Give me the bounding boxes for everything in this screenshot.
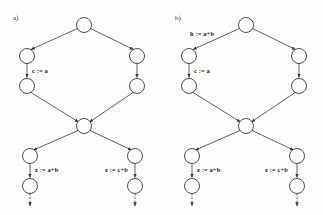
node-left-upper (182, 49, 197, 64)
node-right-upper (292, 49, 307, 64)
node-left-lower (20, 79, 35, 94)
node-exit-left-lower (23, 179, 38, 194)
panel-b-label-left-upper-chain: c := a (194, 67, 210, 74)
node-right-lower (292, 79, 307, 94)
node-entry (239, 18, 254, 33)
edge-left-lower-to-junction (31, 93, 79, 123)
node-exit-left-upper (23, 149, 38, 164)
node-junction (239, 119, 254, 134)
panel-a-label-left-upper-chain: c := a (32, 67, 48, 74)
node-right-upper (130, 49, 145, 64)
panel-b-label-top-left-edge: h := a+b (190, 30, 214, 37)
node-exit-left-upper (185, 149, 200, 164)
edge-junction-to-exit-left (196, 131, 241, 151)
panel-b: b) (162, 0, 323, 215)
panel-a-graph (0, 0, 161, 215)
node-entry (77, 18, 92, 33)
edge-entry-to-right-upper (91, 29, 134, 50)
figure-control-flow-graphs: a) (0, 0, 323, 215)
panel-b-label-bottom-left-chain: z := a+b (197, 166, 220, 173)
node-exit-right-upper (290, 149, 305, 164)
node-exit-left-lower (185, 179, 200, 194)
edge-entry-to-right-upper (253, 29, 296, 50)
edge-junction-to-exit-left (34, 131, 79, 151)
node-exit-right-lower (290, 179, 305, 194)
edge-right-lower-to-junction (90, 93, 134, 123)
edge-junction-to-exit-right (252, 131, 294, 151)
edge-left-lower-to-junction (193, 93, 241, 123)
edge-junction-to-exit-right (90, 131, 132, 151)
panel-a-label-bottom-left-chain: z := a+b (35, 166, 58, 173)
panel-b-graph (162, 0, 323, 215)
edge-right-lower-to-junction (252, 93, 296, 123)
node-left-lower (182, 79, 197, 94)
node-left-upper (20, 49, 35, 64)
panel-b-label-bottom-right-chain: z := c+b (265, 166, 288, 173)
panel-a: a) (0, 0, 161, 215)
node-right-lower (130, 79, 145, 94)
node-exit-right-upper (128, 149, 143, 164)
node-exit-right-lower (128, 179, 143, 194)
panel-a-label-bottom-right-chain: z := c+b (105, 166, 128, 173)
edge-entry-to-left-upper (31, 29, 78, 50)
node-junction (77, 119, 92, 134)
